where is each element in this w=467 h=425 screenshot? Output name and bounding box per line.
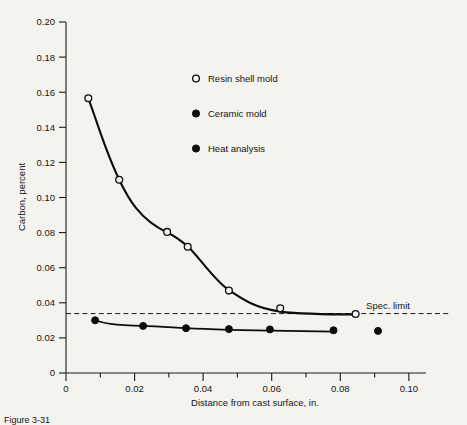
heat-analysis-points — [375, 327, 382, 334]
data-point — [184, 243, 191, 250]
y-tick-label: 0.06 — [37, 262, 56, 273]
y-tick-label: 0.20 — [37, 16, 56, 27]
data-point — [277, 305, 284, 312]
x-axis-title: Distance from cast surface, in. — [191, 397, 319, 408]
y-tick-label: 0.18 — [37, 52, 56, 63]
data-point — [330, 327, 337, 334]
data-point — [225, 326, 232, 333]
legend-item-label: Resin shell mold — [208, 73, 278, 84]
data-point — [164, 229, 171, 236]
y-tick-label: 0.08 — [37, 227, 56, 238]
legend-item-label: Ceramic mold — [208, 108, 267, 119]
legend-marker-open-circle-icon — [193, 75, 200, 82]
data-point — [352, 311, 359, 318]
data-point — [85, 95, 92, 102]
chart-svg: 0.20 0.18 0.16 0.14 0.12 0.10 0.08 0.06 … — [0, 0, 467, 425]
x-tick-label: 0 — [63, 383, 68, 394]
data-point — [183, 325, 190, 332]
legend-marker-filled-circle-icon — [192, 145, 199, 152]
y-tick-label: 0.04 — [37, 297, 56, 308]
y-tick-label: 0.02 — [37, 332, 56, 343]
x-tick-label: 0.10 — [400, 383, 419, 394]
data-point — [266, 326, 273, 333]
y-tick-label: 0.12 — [37, 157, 56, 168]
data-point — [92, 317, 99, 324]
x-tick-label: 0.04 — [194, 383, 213, 394]
y-tick-label: 0 — [50, 367, 55, 378]
figure-background — [0, 0, 467, 425]
data-point — [116, 176, 123, 183]
y-axis-title: Carbon, percent — [16, 163, 27, 231]
legend-marker-filled-circle-icon — [192, 110, 199, 117]
x-tick-label: 0.08 — [331, 383, 350, 394]
data-point — [375, 327, 382, 334]
x-tick-label: 0.02 — [125, 383, 144, 394]
figure-caption: Figure 3-31 — [4, 415, 50, 425]
y-tick-label: 0.10 — [37, 192, 56, 203]
y-tick-label: 0.16 — [37, 87, 56, 98]
y-tick-label: 0.14 — [37, 122, 56, 133]
x-tick-label: 0.06 — [262, 383, 281, 394]
legend-item-label: Heat analysis — [208, 143, 265, 154]
chart-figure: 0.20 0.18 0.16 0.14 0.12 0.10 0.08 0.06 … — [0, 0, 467, 425]
data-point — [140, 322, 147, 329]
spec-limit-label: Spec. limit — [366, 300, 410, 311]
data-point — [226, 287, 233, 294]
